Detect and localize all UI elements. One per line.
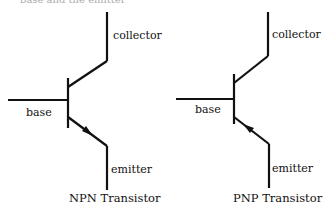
pnp-base-label: base (195, 104, 221, 115)
transistor-diagram-figure: base and the emitter collector base emit (0, 0, 324, 211)
pnp-symbol (176, 12, 269, 188)
pnp-collector-label: collector (272, 29, 321, 40)
npn-title: NPN Transistor (69, 193, 160, 205)
pnp-title: PNP Transistor (233, 193, 322, 205)
pnp-emitter-label: emitter (272, 163, 313, 174)
npn-emitter-label: emitter (111, 164, 152, 175)
npn-base-label: base (26, 107, 52, 118)
npn-collector-label: collector (113, 30, 162, 41)
npn-symbol (8, 12, 107, 190)
